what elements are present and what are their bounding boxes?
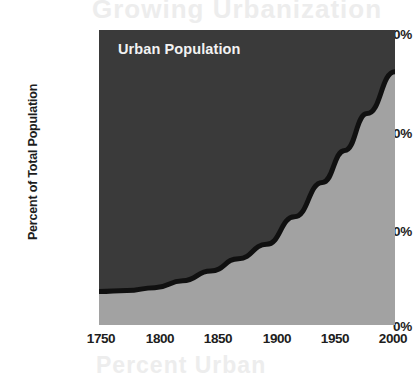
plot-area [99, 30, 395, 325]
series-label-urban-population: Urban Population [118, 41, 240, 57]
area-plot-svg [99, 30, 395, 325]
scan-ghost-top: Growing Urbanization [92, 0, 382, 25]
x-tick-label-1900: 1900 [247, 331, 307, 346]
scan-ghost-bottom: Percent Urban [96, 352, 266, 377]
y-axis-title: Percent of Total Population [22, 12, 44, 312]
x-tick-label-1800: 1800 [130, 331, 190, 346]
x-tick-label-1750: 1750 [71, 331, 131, 346]
x-tick-label-1850: 1850 [188, 331, 248, 346]
x-tick-label-2000: 2000 [363, 331, 417, 346]
x-tick-label-1950: 1950 [305, 331, 365, 346]
